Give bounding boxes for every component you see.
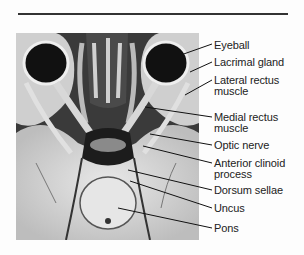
label-text: Dorsum sellae xyxy=(214,184,283,196)
label-eyeball: Eyeball xyxy=(214,40,249,51)
label-dorsum-sellae: Dorsum sellae xyxy=(214,185,283,196)
label-text: Eyeball xyxy=(214,39,249,51)
label-pons: Pons xyxy=(214,223,239,234)
top-rule-divider xyxy=(18,13,288,15)
label-anterior-clinoid-process: Anterior clinoid process xyxy=(214,158,285,180)
label-medial-rectus-muscle: Medial rectus muscle xyxy=(214,112,278,134)
label-lacrimal-gland: Lacrimal gland xyxy=(214,57,284,68)
label-optic-nerve: Optic nerve xyxy=(214,140,269,151)
label-text: Optic nerve xyxy=(214,139,269,151)
anatomical-section-photo xyxy=(16,33,199,240)
label-text: Lacrimal gland xyxy=(214,56,284,68)
label-text-line2: muscle xyxy=(214,122,248,134)
label-text-line2: muscle xyxy=(214,85,248,97)
label-text: Uncus xyxy=(214,202,245,214)
label-text: Pons xyxy=(214,222,239,234)
label-uncus: Uncus xyxy=(214,203,245,214)
label-text-line2: process xyxy=(214,168,252,180)
label-lateral-rectus-muscle: Lateral rectus muscle xyxy=(214,75,279,97)
